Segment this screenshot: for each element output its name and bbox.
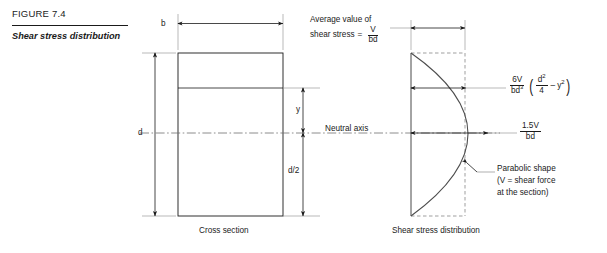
average-equals-sign: = <box>358 30 363 41</box>
y-squared-term: y2 <box>557 81 564 90</box>
half-depth-dimension-label: d/2 <box>288 166 299 176</box>
maximum-stress-formula: 1.5V bd <box>519 122 542 141</box>
average-callout-text: shear stress <box>310 30 355 41</box>
parabolic-stress-curve <box>411 53 468 216</box>
parabolic-denominator-exponent: 3 <box>520 84 523 90</box>
minus-sign: – <box>551 81 556 90</box>
figure-container: FIGURE 7.4 Shear stress distribution b d… <box>0 0 607 253</box>
depth-dimension-label: d <box>138 128 143 138</box>
inner-fraction-denominator: 4 <box>537 86 546 95</box>
inner-fraction: d2 4 <box>536 76 548 95</box>
inner-numerator-exponent: 2 <box>542 73 545 79</box>
average-fraction-numerator: V <box>368 26 377 36</box>
average-callout-line2: shear stress = V bd <box>310 26 381 45</box>
parabolic-note-line2: (V = shear force <box>497 175 605 187</box>
parabolic-note-leader <box>467 163 477 172</box>
parabolic-note-line3: at the section) <box>497 187 605 199</box>
parabolic-outer-fraction: 6V bd3 <box>509 76 525 95</box>
parabolic-denominator-base: bd <box>511 86 520 95</box>
parabolic-parenthesized-term: ( d2 4 – y2 ) <box>527 76 571 95</box>
close-paren: ) <box>566 79 570 93</box>
figure-title: Shear stress distribution <box>12 30 132 42</box>
width-dimension-label: b <box>161 19 166 29</box>
cross-section-caption: Cross section <box>199 226 249 236</box>
average-fraction-denominator: bd <box>366 36 379 45</box>
parabolic-shape-note: Parabolic shape (V = shear force at the … <box>497 163 605 199</box>
neutral-axis-label: Neutral axis <box>325 124 368 134</box>
parabolic-note-line1: Parabolic shape <box>497 163 605 175</box>
shear-distribution-caption: Shear stress distribution <box>392 226 480 236</box>
average-stress-fraction: V bd <box>366 26 379 45</box>
figure-number: FIGURE 7.4 <box>12 8 66 20</box>
average-shear-stress-callout: Average value of shear stress = V bd <box>310 15 381 45</box>
cross-section-rectangle <box>178 53 283 216</box>
y-dimension-label: y <box>296 105 300 115</box>
open-paren: ( <box>529 79 533 93</box>
maximum-denominator: bd <box>524 132 537 141</box>
maximum-numerator: 1.5V <box>520 122 541 132</box>
y-term-exponent: 2 <box>561 79 564 85</box>
inner-fraction-numerator: d2 <box>536 76 548 86</box>
parabolic-denominator: bd3 <box>509 86 525 95</box>
parabolic-stress-formula: 6V bd3 ( d2 4 – y2 ) <box>508 76 572 95</box>
maximum-stress-fraction: 1.5V bd <box>520 122 541 141</box>
